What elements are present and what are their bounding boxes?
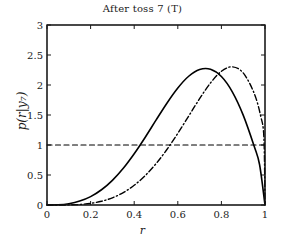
data-series-layer: [47, 25, 265, 205]
x-tick-label: 1: [262, 209, 268, 220]
y-tick-label: 2.5: [10, 50, 43, 61]
x-tick-label: 0.6: [170, 209, 186, 220]
series-posterior-dashdot: [47, 67, 265, 205]
series-posterior-solid: [47, 69, 265, 205]
y-tick-label: 0: [10, 200, 43, 211]
axis-ticks: [47, 25, 265, 205]
x-tick-label: 0.8: [213, 209, 229, 220]
y-tick-label: 2: [10, 80, 43, 91]
x-tick-label: 0.4: [126, 209, 142, 220]
figure-canvas: After toss 7 (T) p(r|y7) r 00.20.40.60.8…: [0, 0, 285, 242]
x-tick-label: 0.2: [83, 209, 99, 220]
x-tick-label: 0: [44, 209, 50, 220]
y-tick-label: 0.5: [10, 170, 43, 181]
axes-box: [47, 25, 265, 205]
y-tick-label: 3: [10, 20, 43, 31]
y-tick-label: 1: [10, 140, 43, 151]
y-tick-label: 1.5: [10, 110, 43, 121]
